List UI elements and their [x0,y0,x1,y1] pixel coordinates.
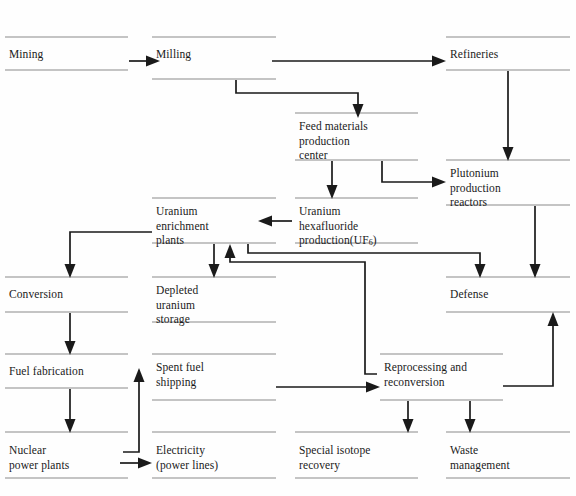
node-depleted-label: Depleted uranium storage [156,283,198,327]
hex-line-1: Uranium [299,205,341,217]
diagram-canvas [0,0,576,496]
edge-reprocessing-to-isotope [403,401,414,433]
edge-fuelfab-to-nuclear [65,389,76,433]
node-enrichment-label: Uranium enrichment plants [156,204,209,248]
node-mining-label: Mining [9,47,43,62]
node-nuclear-label: Nuclear power plants [9,443,69,472]
edge-conversion-to-fuelfab [65,313,76,355]
node-fuelfab-label: Fuel fabrication [9,364,84,379]
node-isotope-label: Special isotope recovery [299,443,370,472]
edge-nuclear-to-electricity [120,458,152,469]
hex-line-3-post: ) [373,234,377,246]
node-refineries-label: Refineries [450,47,498,62]
edge-hexafluoride-to-enrichment [258,216,292,227]
hex-line-2: hexafluoride [299,220,358,232]
node-milling-label: Milling [156,47,191,62]
node-conversion-label: Conversion [9,287,63,302]
edge-plutonium-to-defense [530,206,541,278]
nuclear-fuel-cycle-diagram: Mining Milling Refineries Feed materials… [0,0,576,496]
edge-refineries-to-plutonium [503,71,514,161]
node-plutonium-label: Plutonium production reactors [450,166,501,210]
edge-feed-to-plutonium [382,161,446,188]
edge-reprocessing-to-defense [503,312,559,386]
edge-enrichment-to-conversion [65,232,153,278]
connectors [65,56,559,469]
edge-feed-to-hexafluoride [327,161,338,199]
node-spentfuel-label: Spent fuel shipping [156,360,204,389]
edge-milling-to-refineries [272,56,446,67]
edge-nuclear-to-spentfuel [123,368,145,452]
node-hexafluoride-label: Uraniumhexafluorideproduction(UF6) [299,204,377,251]
box-rules [5,37,570,478]
hex-line-3-pre: production(UF [299,234,369,246]
node-waste-label: Waste management [450,443,510,472]
edge-milling-to-feed [236,80,364,118]
node-electricity-label: Electricity (power lines) [156,443,218,472]
edge-enrichment-to-depleted [209,244,220,278]
node-defense-label: Defense [450,287,488,302]
node-feed-label: Feed materials production center [299,119,368,163]
node-reprocessing-label: Reprocessing and reconversion [384,360,467,389]
edge-spentfuel-to-reprocessing [276,382,380,393]
edge-reprocessing-to-waste [465,401,476,433]
